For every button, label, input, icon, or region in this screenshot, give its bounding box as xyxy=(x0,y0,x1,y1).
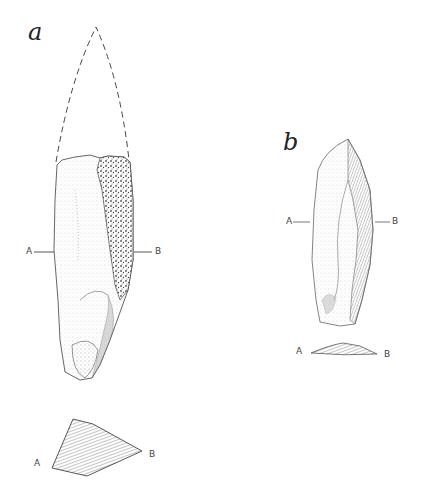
section-marker-b-left: A xyxy=(286,217,292,226)
cross-section-b-left: A xyxy=(296,347,302,356)
reconstructed-tip-outline xyxy=(56,27,129,162)
artifact-b xyxy=(293,139,390,355)
section-marker-a-right: B xyxy=(155,247,161,256)
cross-section-a xyxy=(52,419,142,476)
figure-canvas: a b A B A B A B A B xyxy=(0,0,422,499)
artifact-drawing xyxy=(0,0,422,499)
cross-section-a-left: A xyxy=(34,459,40,468)
figure-label-a: a xyxy=(28,20,42,44)
section-marker-a-left: A xyxy=(26,247,32,256)
artifact-a xyxy=(34,27,152,476)
cross-section-b-right: B xyxy=(384,350,390,359)
figure-label-b: b xyxy=(283,130,298,154)
cross-section-a-right: B xyxy=(149,450,155,459)
section-marker-b-right: B xyxy=(392,217,398,226)
cross-section-b xyxy=(311,343,377,355)
